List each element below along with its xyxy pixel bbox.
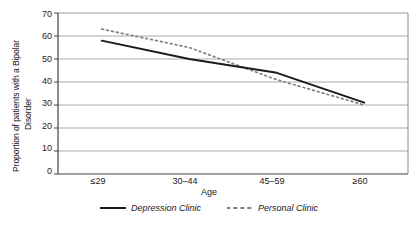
x-axis-title: Age [0, 187, 418, 197]
legend-swatch-solid-icon [100, 204, 126, 212]
x-tick-label-1: 30–44 [155, 176, 215, 186]
chart-figure: Proportion of patients with a Bipolar Di… [0, 0, 418, 227]
legend-label-personal-clinic: Personal Clinic [258, 203, 318, 213]
x-tick-label-2: 45–59 [242, 176, 302, 186]
x-tick-label-3: ≥60 [330, 176, 390, 186]
legend-swatch-dotted-icon [227, 204, 253, 212]
plot-background [58, 13, 408, 174]
x-tick-label-0: ≤29 [68, 176, 128, 186]
legend-entry-personal-clinic: Personal Clinic [227, 203, 318, 213]
legend-entry-depression-clinic: Depression Clinic [100, 203, 201, 213]
chart-legend: Depression Clinic Personal Clinic [0, 203, 418, 213]
legend-label-depression-clinic: Depression Clinic [131, 203, 201, 213]
